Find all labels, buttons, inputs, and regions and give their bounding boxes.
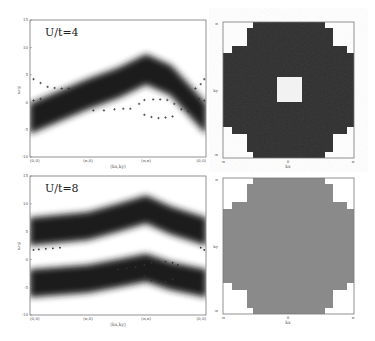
cross-marker xyxy=(32,78,34,80)
dot-marker xyxy=(165,281,167,283)
cross-marker xyxy=(39,82,41,84)
x-tick-label: (π,π) xyxy=(141,158,151,163)
y-tick-label: 0 xyxy=(25,100,28,105)
y-axis-label: ω-μ xyxy=(16,86,21,94)
x-tick-label: (π,0) xyxy=(83,158,93,163)
y-tick-label: 5 xyxy=(25,72,28,77)
dot-marker xyxy=(144,275,146,277)
cross-marker xyxy=(171,115,173,117)
panel-label: U/t=8 xyxy=(45,182,79,195)
cross-marker xyxy=(166,99,168,101)
dot-marker xyxy=(135,266,137,268)
cross-marker xyxy=(122,108,124,110)
x-tick-labels: (0,0)(π,0)(π,π)(0,0) xyxy=(30,316,206,321)
dot-marker xyxy=(203,249,205,251)
dot-marker xyxy=(144,264,146,266)
fermi-region-fill xyxy=(223,178,354,314)
y-tick-top: π xyxy=(215,21,218,26)
cross-marker xyxy=(159,98,161,100)
spectral-heatmap xyxy=(30,54,207,133)
x-tick-label: (π,π) xyxy=(141,316,151,321)
cross-marker xyxy=(53,87,55,89)
panel-spectral-u4: U/t=4 151050-5-10 (0,0)(π,0)(π,π)(0,0) (… xyxy=(16,17,207,169)
dot-marker xyxy=(117,269,119,271)
dot-marker xyxy=(59,247,61,249)
y-tick-label: -5 xyxy=(24,285,28,290)
cross-marker xyxy=(152,98,154,100)
x-tick-left: -π xyxy=(221,315,225,320)
dot-marker xyxy=(200,247,202,249)
cross-marker xyxy=(103,109,105,111)
y-tick-top: π xyxy=(215,177,218,182)
y-tick-label: -5 xyxy=(24,127,28,132)
x-tick-right: π xyxy=(352,159,355,164)
cross-marker xyxy=(113,108,115,110)
dot-marker xyxy=(33,249,35,251)
dot-marker xyxy=(45,248,47,250)
x-tick-label: (0,0) xyxy=(30,158,40,163)
cross-marker xyxy=(46,86,48,88)
y-tick-bottom: -π xyxy=(214,308,218,313)
cross-marker xyxy=(138,103,140,105)
x-axis-label: (kx,ky) xyxy=(110,322,126,327)
dot-marker xyxy=(151,262,153,264)
dot-marker xyxy=(172,262,174,264)
dot-marker xyxy=(182,268,184,270)
center-hole xyxy=(277,77,302,102)
y-axis-label: ky xyxy=(213,244,218,249)
x-axis-label: kx xyxy=(285,320,291,325)
x-axis-label: (kx,ky) xyxy=(110,164,126,169)
y-tick-label: 15 xyxy=(23,173,29,178)
y-tick-label: 10 xyxy=(23,201,29,206)
dot-marker xyxy=(151,280,153,282)
dot-marker xyxy=(158,261,160,263)
cross-marker xyxy=(157,117,159,119)
y-axis-label: ω-μ xyxy=(16,242,21,250)
dot-marker xyxy=(177,264,179,266)
spectral-heatmap xyxy=(30,196,207,298)
panel-label: U/t=4 xyxy=(45,26,79,39)
dot-marker xyxy=(126,267,128,269)
cross-marker xyxy=(32,99,34,101)
dot-marker xyxy=(52,247,54,249)
x-tick-label: (0,0) xyxy=(197,316,207,321)
cross-marker xyxy=(200,83,202,85)
y-tick-label: 15 xyxy=(23,17,29,22)
panel-momentum-map-u4: π ky -π -π 0 π kx xyxy=(213,21,354,169)
y-tick-label: 0 xyxy=(25,257,28,262)
dot-marker xyxy=(172,279,174,281)
y-axis-label: ky xyxy=(213,88,218,93)
x-tick-label: (0,0) xyxy=(30,316,40,321)
cross-marker xyxy=(143,114,145,116)
x-tick-labels: (0,0)(π,0)(π,π)(0,0) xyxy=(30,158,206,163)
dot-marker xyxy=(38,248,40,250)
cross-marker xyxy=(164,116,166,118)
cross-marker xyxy=(203,78,205,80)
y-tick-bottom: -π xyxy=(214,152,218,157)
dot-marker xyxy=(158,281,160,283)
y-tick-label: -10 xyxy=(22,154,29,159)
y-tick-label: -10 xyxy=(22,312,29,317)
panel-spectral-u8: U/t=8 151050-5-10 (0,0)(π,0)(π,π)(0,0) (… xyxy=(16,173,207,327)
x-axis-label: kx xyxy=(285,164,291,169)
x-tick-left: -π xyxy=(221,159,225,164)
cross-marker xyxy=(150,116,152,118)
dot-marker xyxy=(165,261,167,263)
y-tick-label: 10 xyxy=(23,45,29,50)
y-tick-label: 5 xyxy=(25,229,28,234)
y-tick-labels: 151050-5-10 xyxy=(22,17,32,159)
cross-marker xyxy=(143,99,145,101)
x-tick-label: (π,0) xyxy=(83,316,93,321)
cross-marker xyxy=(92,109,94,111)
x-tick-right: π xyxy=(352,315,355,320)
cross-marker xyxy=(173,103,175,105)
cross-marker xyxy=(129,108,131,110)
x-tick-label: (0,0) xyxy=(197,158,207,163)
figure: U/t=4 151050-5-10 (0,0)(π,0)(π,π)(0,0) (… xyxy=(0,0,375,341)
panel-momentum-map-u8: π ky -π -π 0 π kx xyxy=(213,177,354,325)
